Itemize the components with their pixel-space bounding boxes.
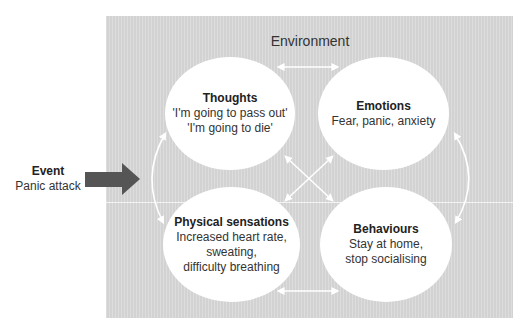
node-line: sweating, — [206, 245, 257, 260]
node-line: Stay at home, — [349, 237, 423, 252]
environment-label: Environment — [260, 33, 360, 49]
node-title: Thoughts — [203, 91, 258, 106]
node-thoughts: Thoughts 'I'm going to pass out' 'I'm go… — [165, 57, 295, 170]
background-seam — [106, 202, 513, 203]
event-label: Event Panic attack — [0, 164, 96, 194]
node-title: Behaviours — [353, 222, 418, 237]
node-emotions: Emotions Fear, panic, anxiety — [318, 57, 449, 170]
node-behaviours: Behaviours Stay at home, stop socialisin… — [320, 187, 452, 302]
event-title: Event — [0, 164, 96, 179]
node-title: Emotions — [356, 99, 411, 114]
node-line: Fear, panic, anxiety — [331, 114, 435, 129]
node-physical-sensations: Physical sensations Increased heart rate… — [163, 187, 300, 302]
environment-box — [106, 16, 513, 318]
node-line: 'I'm going to pass out' — [173, 106, 288, 121]
node-line: Increased heart rate, — [176, 230, 287, 245]
node-line: difficulty breathing — [183, 260, 280, 275]
node-line: 'I'm going to die' — [187, 121, 273, 136]
node-title: Physical sensations — [174, 215, 289, 230]
node-line: stop socialising — [345, 252, 426, 267]
event-description: Panic attack — [0, 179, 96, 194]
